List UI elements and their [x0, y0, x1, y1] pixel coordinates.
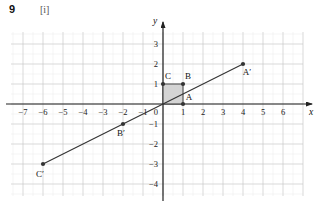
x-tick-label: −4: [78, 107, 88, 117]
plotted-point-Cprime: C′: [36, 162, 45, 179]
y-tick-label: 3: [154, 39, 158, 49]
x-tick-label: −7: [18, 107, 27, 117]
y-tick-label: 1: [154, 79, 158, 89]
x-tick-label: 2: [201, 107, 205, 117]
point-label: A: [186, 92, 193, 102]
y-axis-name: y: [152, 16, 158, 26]
x-tick-label: −1: [138, 107, 147, 117]
x-tick-label: 3: [221, 107, 225, 117]
shaded-unit-square: [163, 84, 183, 104]
x-tick-label: 5: [261, 107, 265, 117]
shaded-region: [163, 84, 183, 104]
point-label: C′: [36, 169, 44, 179]
y-tick-label: 2: [154, 59, 158, 69]
x-tick-label: 6: [281, 107, 285, 117]
x-axis-name: x: [308, 107, 314, 117]
point-label: C: [165, 71, 171, 81]
origin-label: 0: [154, 107, 158, 117]
worksheet-figure-page: 9 [i] −7−6−5−4−3−2−10123456−4−3−2−1123 A…: [0, 0, 315, 205]
point-label: A′: [243, 67, 251, 77]
y-tick-label: −3: [149, 159, 158, 169]
point-marker: [41, 162, 45, 166]
x-tick-label: 4: [241, 107, 246, 117]
point-label: B: [185, 71, 191, 81]
y-tick-label: −1: [149, 119, 158, 129]
point-marker: [121, 122, 125, 126]
x-tick-label: 1: [181, 107, 185, 117]
x-tick-label: −2: [118, 107, 127, 117]
x-tick-label: −5: [58, 107, 67, 117]
x-tick-label: −6: [38, 107, 47, 117]
y-tick-label: −4: [149, 179, 159, 189]
point-marker: [181, 82, 185, 86]
y-tick-label: −2: [149, 139, 158, 149]
point-marker: [161, 82, 165, 86]
plotted-points: ABCA′B′C′: [36, 62, 251, 179]
x-tick-label: −3: [98, 107, 107, 117]
point-marker: [181, 102, 185, 106]
coordinate-plot-svg: −7−6−5−4−3−2−10123456−4−3−2−1123 ABCA′B′…: [0, 0, 315, 205]
point-label: B′: [117, 128, 125, 138]
point-marker: [241, 62, 245, 66]
coordinate-grid-figure: −7−6−5−4−3−2−10123456−4−3−2−1123 ABCA′B′…: [0, 0, 315, 205]
